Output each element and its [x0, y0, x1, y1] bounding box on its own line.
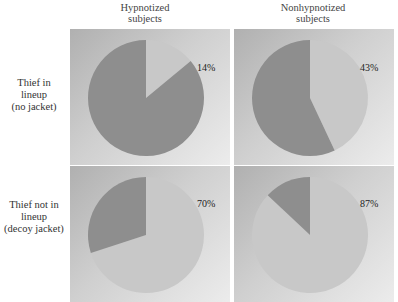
pie-chart — [70, 29, 230, 165]
row-header-thief-not-in-lineup: Thief not in lineup (decoy jacket) — [0, 199, 68, 235]
percent-label: 70% — [197, 198, 215, 209]
percent-label: 87% — [360, 198, 378, 209]
column-header-hypnotized: Hypnotized subjects — [65, 2, 225, 24]
pie-panel-hypnotized-in-lineup: 14% — [70, 29, 230, 165]
percent-label: 43% — [360, 62, 378, 73]
pie-panel-hypnotized-not-in-lineup: 70% — [70, 166, 230, 302]
pie-chart — [234, 29, 394, 165]
pie-chart — [70, 166, 230, 302]
column-header-nonhypnotized: Nonhypnotized subjects — [233, 2, 393, 24]
pie-chart — [234, 166, 394, 302]
pie-panel-nonhypnotized-in-lineup: 43% — [234, 29, 394, 165]
percent-label: 14% — [197, 62, 215, 73]
pie-panel-nonhypnotized-not-in-lineup: 87% — [234, 166, 394, 302]
row-header-thief-in-lineup: Thief in lineup (no jacket) — [0, 77, 68, 113]
